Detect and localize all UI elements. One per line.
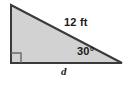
base-angle-label: 30° [77,46,94,57]
right-triangle-figure: 12 ft 30° d [0,0,130,85]
hypotenuse-length-label: 12 ft [64,17,88,28]
triangle-shape [11,5,122,63]
base-length-label: d [61,66,67,77]
